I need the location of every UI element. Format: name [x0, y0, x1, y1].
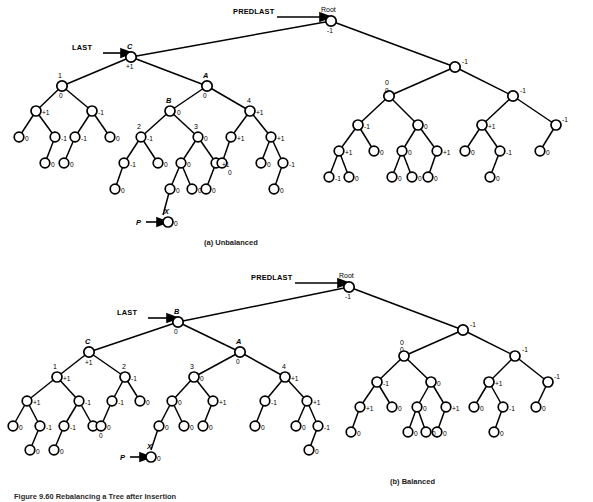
node-x	[146, 452, 156, 462]
tree-balanced: PREDLAST LAST P	[8, 272, 560, 462]
node	[179, 421, 189, 431]
pointer-label-p-b: P	[120, 453, 125, 462]
label-a: A	[202, 71, 208, 80]
svg-text:-1: -1	[81, 135, 87, 142]
node	[154, 421, 164, 431]
svg-text:0: 0	[25, 135, 29, 142]
node	[484, 377, 494, 387]
svg-text:0: 0	[200, 375, 204, 382]
node	[107, 396, 117, 406]
pointer-label-last-b: LAST	[117, 308, 137, 317]
node	[187, 184, 197, 194]
figure-avl-rebalancing: PREDLAST LAST P	[0, 0, 593, 502]
node	[387, 402, 397, 412]
svg-text:0: 0	[121, 187, 125, 194]
node	[372, 377, 382, 387]
svg-text:-1: -1	[335, 175, 341, 182]
svg-text:-1: -1	[70, 424, 76, 431]
node	[165, 184, 175, 194]
svg-text:0: 0	[212, 187, 216, 194]
label-c-b: C	[85, 337, 91, 346]
node	[426, 377, 436, 387]
svg-text:-1: -1	[509, 405, 515, 412]
svg-text:0: 0	[432, 430, 436, 437]
svg-text:0: 0	[70, 161, 74, 168]
pointer-label-p: P	[136, 218, 141, 227]
svg-text:0: 0	[398, 405, 402, 412]
node	[369, 146, 379, 156]
node	[531, 402, 541, 412]
node	[153, 158, 163, 168]
node	[193, 132, 203, 142]
svg-text:-1: -1	[289, 161, 295, 168]
node	[59, 421, 69, 431]
node	[136, 132, 146, 142]
node	[458, 325, 468, 335]
node	[495, 146, 505, 156]
pointer-arrows-bottom: PREDLAST LAST P	[117, 273, 349, 462]
svg-text:+1: +1	[237, 135, 245, 142]
svg-text:-1: -1	[554, 373, 560, 380]
node	[397, 146, 407, 156]
node	[70, 132, 80, 142]
figure-caption: Figure 9.60 Rebalancing a Tree after Ins…	[14, 492, 354, 502]
node	[280, 372, 290, 382]
node	[120, 372, 130, 382]
svg-text:+1: +1	[366, 405, 374, 412]
tree-nodes-top	[14, 16, 561, 227]
node	[245, 106, 255, 116]
node	[50, 132, 60, 142]
node	[551, 120, 561, 130]
node	[498, 402, 508, 412]
svg-text:0: 0	[209, 424, 213, 431]
svg-text:+1: +1	[313, 399, 321, 406]
node	[49, 445, 59, 455]
panel-caption-b: (b) Balanced	[390, 477, 435, 486]
svg-text:-1: -1	[130, 161, 136, 168]
node	[432, 146, 442, 156]
svg-text:-1: -1	[506, 149, 512, 156]
node-names-top: Root C A B X 1 2 3 4 0	[58, 6, 389, 216]
label-root: Root	[321, 6, 336, 13]
svg-text:-1: -1	[345, 293, 351, 300]
node	[96, 421, 106, 431]
svg-text:0: 0	[408, 149, 412, 156]
node-c	[126, 52, 136, 62]
svg-text:0: 0	[107, 424, 111, 431]
node	[135, 396, 145, 406]
svg-text:3: 3	[194, 123, 198, 130]
node	[31, 106, 41, 116]
svg-text:+1: +1	[63, 375, 71, 382]
node	[189, 372, 199, 382]
svg-text:+1: +1	[219, 399, 227, 406]
svg-text:+1: +1	[495, 380, 503, 387]
svg-text:0: 0	[500, 430, 504, 437]
node-a	[235, 347, 245, 357]
node	[324, 172, 334, 182]
svg-text:-1: -1	[562, 116, 568, 123]
svg-text:-1: -1	[364, 123, 370, 130]
svg-text:0: 0	[236, 358, 240, 365]
svg-text:1: 1	[58, 72, 62, 79]
node	[74, 396, 84, 406]
svg-text:-1: -1	[85, 399, 91, 406]
svg-text:0: 0	[203, 92, 207, 99]
svg-text:+1: +1	[443, 149, 451, 156]
svg-text:0: 0	[542, 405, 546, 412]
svg-text:-1: -1	[131, 375, 137, 382]
svg-text:-1: -1	[271, 399, 277, 406]
svg-text:-1: -1	[46, 424, 52, 431]
svg-text:+1: +1	[85, 359, 93, 366]
pointer-label-predlast: PREDLAST	[233, 7, 275, 16]
svg-text:0: 0	[546, 149, 550, 156]
svg-text:0: 0	[228, 169, 232, 176]
node	[201, 184, 211, 194]
tree-edges-top	[19, 21, 556, 215]
svg-text:0: 0	[280, 187, 284, 194]
node	[110, 184, 120, 194]
node-a	[202, 81, 212, 91]
svg-text:-1: -1	[520, 87, 526, 94]
svg-text:0: 0	[165, 424, 169, 431]
tree-nodes-bottom	[8, 282, 553, 462]
node	[450, 62, 460, 72]
